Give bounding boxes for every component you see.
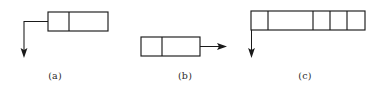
panel-b-node-box <box>141 37 200 56</box>
panel-a-pointer-line <box>24 22 48 51</box>
panel-c-group <box>248 11 365 58</box>
figure-container: (a) (b) (c) <box>0 0 386 95</box>
panel-b-group <box>141 37 227 56</box>
panel-label-c: (c) <box>298 70 311 81</box>
panel-label-a: (a) <box>48 70 62 81</box>
panel-a-node-box <box>48 12 108 31</box>
panel-label-b: (b) <box>178 70 192 81</box>
panel-a-group <box>21 12 108 58</box>
